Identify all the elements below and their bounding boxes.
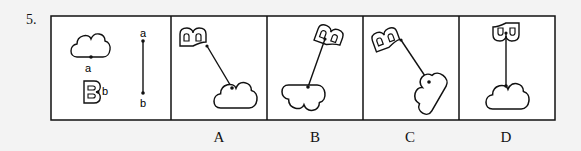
puzzle-figure: a b a b (0, 0, 581, 151)
option-c-label[interactable]: C (400, 129, 420, 146)
option-a-label[interactable]: A (209, 129, 229, 146)
stick-label-a: a (140, 27, 147, 39)
stick-label-b: b (140, 97, 146, 109)
cloud-label-a: a (85, 62, 92, 74)
option-d-label[interactable]: D (496, 129, 516, 146)
b-shape-label-b: b (102, 85, 108, 97)
b-shape (84, 81, 100, 103)
option-b-label[interactable]: B (305, 129, 325, 146)
